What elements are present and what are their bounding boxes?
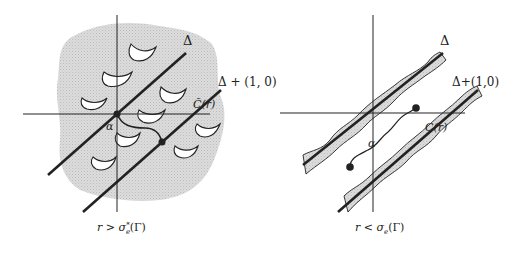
caption-right: r < σe(Γ) <box>355 221 404 236</box>
endpoint-dot <box>159 139 166 146</box>
right-panel: Δ Δ+(1,0) C(r) α r < σe(Γ) <box>280 15 499 236</box>
label-origin: α <box>368 137 376 150</box>
line-delta-shifted <box>338 90 478 212</box>
origin-dot <box>114 111 121 118</box>
caption-left: r > σe*(Γ) <box>97 221 146 236</box>
dot-upper <box>412 104 420 112</box>
label-origin: α <box>106 120 114 133</box>
label-delta-shifted: Δ+(1,0) <box>452 75 499 89</box>
dot-lower <box>346 163 354 171</box>
label-delta: Δ <box>440 33 449 48</box>
diagram-canvas: Δ Δ + (1, 0) C̃(r) α r > σe*(Γ) Δ Δ+(1,0… <box>0 0 524 254</box>
left-panel: Δ Δ + (1, 0) C̃(r) α r > σe*(Γ) <box>23 15 277 236</box>
label-curve: C(r) <box>425 121 447 134</box>
label-delta-shifted: Δ + (1, 0) <box>218 75 277 89</box>
label-curve: C̃(r) <box>193 98 215 111</box>
label-delta: Δ <box>183 33 192 48</box>
